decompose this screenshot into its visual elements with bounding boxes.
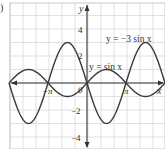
y-tick-4: 4	[78, 25, 83, 35]
y-axis-up-arrow-icon	[85, 5, 90, 11]
y-axis-down-arrow-icon	[85, 142, 90, 148]
curve-label-neg3-sin-x: y = −3 sin x	[106, 34, 152, 44]
x-axis-left-arrow-icon	[11, 81, 17, 86]
x-tick-neg-pi: −π	[42, 86, 53, 96]
part-label: )	[0, 2, 3, 14]
x-axis-label: x	[156, 85, 162, 96]
y-tick-neg2: −2	[71, 106, 81, 116]
x-tick-pi: π	[124, 86, 129, 96]
y-tick-2: 2	[78, 51, 83, 61]
origin-label: 0	[78, 85, 83, 95]
y-tick-neg4: −4	[71, 133, 81, 143]
sine-graph: ) y x 0 −π π 4 2 −2 −4 y = −3 sin x y = …	[0, 0, 165, 149]
y-axis-label: y	[78, 3, 84, 14]
curve-label-sin-x: y = sin x	[89, 62, 122, 72]
